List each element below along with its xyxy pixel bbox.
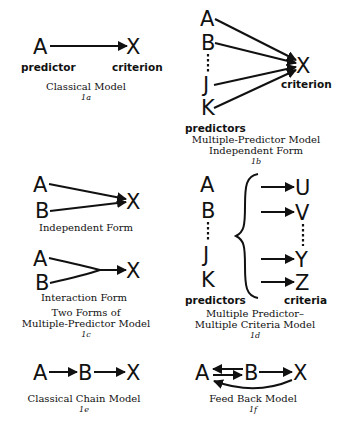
caption-classical-model: Classical Model [46, 81, 126, 92]
models-diagram: A X predictor criterion Classical Model … [0, 0, 339, 426]
node-a: A [195, 361, 210, 385]
node-k: K [201, 268, 216, 292]
node-x: X [126, 361, 140, 385]
node-a: A [33, 361, 48, 385]
node-b: B [244, 361, 258, 385]
node-j: J [201, 73, 209, 97]
panel-1a-classical-model: A X predictor criterion Classical Model … [21, 35, 163, 102]
figure-number-1c: 1c [81, 330, 91, 339]
subpanel-independent-form: A B X Independent Form [33, 173, 140, 233]
node-x: X [126, 35, 140, 59]
curly-brace [236, 174, 258, 298]
panel-1d-multiple-predictor-multiple-criteria: A B J K U V Y Z predictors criteria Mult… [185, 173, 327, 340]
label-predictor: predictor [21, 61, 76, 73]
figure-number-1a: 1a [81, 93, 91, 102]
caption-line-1: Multiple Predictor– [206, 308, 304, 319]
node-j: J [201, 243, 209, 267]
caption-feed-back-model: Feed Back Model [209, 393, 297, 404]
node-x: X [293, 361, 307, 385]
node-u: U [295, 176, 310, 200]
node-x: X [126, 259, 140, 283]
node-z: Z [295, 271, 309, 295]
node-b: B [78, 361, 92, 385]
line-a-join [49, 258, 100, 270]
node-a: A [33, 247, 48, 271]
label-criterion: criterion [112, 61, 163, 73]
arrow-a-to-x [49, 184, 126, 199]
caption-line-2: Multiple-Predictor Model [22, 318, 150, 329]
node-a: A [33, 173, 48, 197]
node-k: K [201, 96, 216, 120]
node-a: A [200, 7, 215, 31]
panel-1c-two-forms: A B X Independent Form A B X Interaction… [22, 173, 150, 339]
caption-line-2: Multiple Criteria Model [195, 319, 315, 330]
label-interaction-form: Interaction Form [41, 292, 128, 303]
caption-line-2: Independent Form [209, 145, 304, 156]
label-predictors: predictors [185, 294, 246, 306]
panel-1e-classical-chain: A B X Classical Chain Model 1e [28, 361, 141, 414]
figure-number-1e: 1e [79, 405, 89, 414]
label-criteria: criteria [284, 294, 327, 306]
node-b: B [35, 199, 49, 223]
label-predictors: predictors [185, 122, 246, 134]
label-independent-form: Independent Form [39, 222, 134, 233]
line-b-join [50, 270, 100, 283]
figure-number-1d: 1d [250, 331, 260, 340]
node-v: V [295, 201, 310, 225]
panel-1f-feed-back: A B X Feed Back Model 1f [195, 361, 307, 414]
node-x: X [126, 190, 140, 214]
subpanel-interaction-form: A B X Interaction Form [33, 247, 140, 303]
figure-number-1f: 1f [249, 405, 259, 414]
panel-1b-multiple-predictor-independent: A B J K X criterion predictors Multiple-… [185, 7, 332, 166]
node-b: B [201, 199, 215, 223]
node-b: B [201, 31, 215, 55]
node-x: X [296, 54, 310, 78]
caption-line-1: Multiple-Predictor Model [192, 134, 320, 145]
arrow-b-to-x [50, 202, 126, 211]
figure-number-1b: 1b [251, 157, 261, 166]
caption-line-1: Two Forms of [52, 307, 122, 318]
label-criterion: criterion [281, 78, 332, 90]
caption-classical-chain-model: Classical Chain Model [28, 393, 141, 404]
node-a: A [200, 173, 215, 197]
node-y: Y [294, 248, 308, 272]
node-a: A [33, 35, 48, 59]
